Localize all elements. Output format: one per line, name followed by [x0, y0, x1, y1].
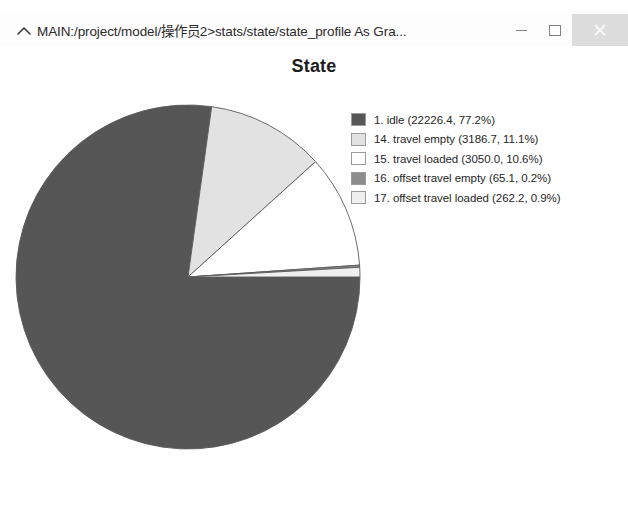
legend-item-travel-loaded[interactable]: 15. travel loaded (3050.0, 10.6%) — [351, 149, 611, 169]
legend-swatch-travel-loaded — [351, 152, 366, 165]
legend-label-travel-loaded: 15. travel loaded (3050.0, 10.6%) — [374, 153, 542, 165]
legend-swatch-offset-travel-empty — [351, 172, 366, 185]
legend-swatch-idle — [351, 113, 366, 126]
chart-window: MAIN:/project/model/操作员2>stats/state/sta… — [0, 0, 628, 509]
legend-label-offset-travel-loaded: 17. offset travel loaded (262.2, 0.9%) — [374, 192, 560, 204]
pie-chart — [12, 101, 364, 453]
maximize-icon — [549, 25, 561, 36]
chart-title: State — [0, 56, 628, 77]
close-icon — [593, 23, 607, 37]
chart-canvas: State 1. idle (22226.4, 77.2%) 14. trave… — [0, 46, 628, 509]
window-title: MAIN:/project/model/操作员2>stats/state/sta… — [37, 20, 407, 40]
legend-swatch-offset-travel-loaded — [351, 191, 366, 204]
legend-item-idle[interactable]: 1. idle (22226.4, 77.2%) — [351, 110, 611, 130]
minimize-icon — [516, 30, 527, 31]
legend-item-offset-travel-loaded[interactable]: 17. offset travel loaded (262.2, 0.9%) — [351, 188, 611, 208]
minimize-button[interactable] — [504, 14, 538, 46]
maximize-button[interactable] — [538, 14, 572, 46]
legend-label-travel-empty: 14. travel empty (3186.7, 11.1%) — [374, 133, 538, 145]
window-controls — [504, 14, 628, 46]
legend-item-travel-empty[interactable]: 14. travel empty (3186.7, 11.1%) — [351, 130, 611, 150]
legend-swatch-travel-empty — [351, 133, 366, 146]
chart-legend: 1. idle (22226.4, 77.2%) 14. travel empt… — [351, 110, 611, 208]
legend-label-offset-travel-empty: 16. offset travel empty (65.1, 0.2%) — [374, 172, 551, 184]
legend-item-offset-travel-empty[interactable]: 16. offset travel empty (65.1, 0.2%) — [351, 169, 611, 189]
pie-chart-svg[interactable] — [12, 101, 364, 453]
window-title-group: MAIN:/project/model/操作员2>stats/state/sta… — [16, 20, 504, 40]
window-titlebar[interactable]: MAIN:/project/model/操作员2>stats/state/sta… — [0, 14, 628, 46]
legend-label-idle: 1. idle (22226.4, 77.2%) — [374, 114, 495, 126]
chevron-up-icon[interactable] — [16, 24, 32, 38]
close-button[interactable] — [572, 14, 628, 46]
